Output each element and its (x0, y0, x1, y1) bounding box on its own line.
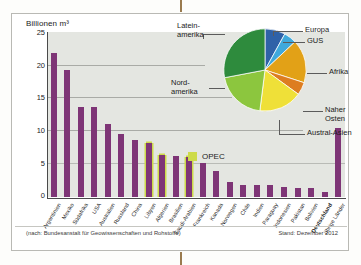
bar-australien (101, 32, 115, 197)
figure-frame: Billionen m³ 25 20 15 10 5 0 Ar (11, 13, 349, 251)
bar-usa (88, 32, 102, 197)
pie-label-naher-osten: Naher Osten (325, 106, 345, 124)
leader-lateinamerika-2 (203, 34, 214, 35)
bar-rect (254, 185, 260, 197)
y-tick-20: 20 (37, 60, 45, 69)
leader-austral-asien (279, 134, 305, 135)
pie-label-afrika: Afrika (329, 68, 348, 77)
pie-label-nordamerika-line2: amerika (171, 87, 198, 96)
leader-europa-stub (273, 31, 274, 36)
pie-slice-lateinamerika (224, 29, 265, 78)
leader-europa (273, 31, 303, 32)
bar-rect (322, 192, 328, 197)
registration-mark-bottom (180, 252, 182, 265)
x-label-chile: Chile (240, 202, 252, 216)
bar-rect (91, 107, 97, 197)
pie-label-lateinamerika: Latein- amerika (177, 22, 204, 40)
pie-label-lateinamerika-line2: amerika (177, 30, 204, 39)
pie-label-europa: Europa (305, 26, 329, 35)
leader-lateinamerika (213, 34, 225, 35)
leader-gus (283, 42, 305, 43)
bar-brasilien (169, 32, 183, 197)
bar-rect (132, 140, 138, 197)
y-tick-0: 0 (41, 191, 45, 200)
bar-rect (78, 107, 84, 197)
y-axis: 25 20 15 10 5 0 (34, 32, 47, 197)
y-tick-5: 5 (41, 158, 45, 167)
bar-rect (146, 143, 152, 197)
pie-label-nordamerika-line1: Nord- (171, 78, 190, 87)
bar-rect (227, 182, 233, 197)
bar-rect (159, 155, 165, 197)
x-label-indien: Indien (252, 202, 265, 218)
date-note: Stand: Dezember 2012 (278, 230, 338, 236)
footer-divider (15, 226, 347, 227)
bar-rect (213, 171, 219, 197)
leader-naher-osten (303, 111, 323, 112)
bar-libyen (142, 32, 156, 197)
bar-rect (200, 163, 206, 197)
pie-label-naher-osten-line2: Osten (325, 114, 345, 123)
bar-rect (308, 188, 314, 197)
pie-chart: Latein- amerika Nord- amerika Europa GUS… (195, 16, 350, 161)
leader-afrika (307, 73, 327, 74)
y-tick-10: 10 (37, 126, 45, 135)
bar-rect (281, 187, 287, 197)
bar-saudi-arabien (182, 32, 196, 197)
y-tick-15: 15 (37, 93, 45, 102)
bar-rect (118, 134, 124, 197)
y-tick-25: 25 (37, 28, 45, 37)
bar-algerien (155, 32, 169, 197)
bar-rect (105, 124, 111, 197)
registration-mark-top (180, 0, 182, 12)
figure-page: Billionen m³ 25 20 15 10 5 0 Ar (0, 0, 361, 265)
pie-label-gus: GUS (307, 37, 323, 46)
leader-nordamerika (209, 88, 225, 89)
bar-rect (64, 70, 70, 197)
bar-china (128, 32, 142, 197)
pie-graphic (223, 28, 307, 112)
x-label-china: China (130, 202, 143, 218)
bar-rect (186, 157, 192, 197)
pie-label-nordamerika: Nord- amerika (171, 79, 198, 97)
source-note: (nach: Bundesanstalt für Geowissenschaft… (26, 230, 181, 236)
bar-rect (240, 185, 246, 197)
leader-austral-asien-stub (279, 120, 280, 135)
x-axis-line (47, 198, 346, 199)
y-axis-title: Billionen m³ (26, 19, 69, 28)
bar-rect (51, 53, 57, 197)
bar-russland (115, 32, 129, 197)
pie-label-austral-asien: Austral-Asien (307, 129, 352, 138)
bar-rect (173, 156, 179, 197)
pie-label-naher-osten-line1: Naher (325, 105, 345, 114)
bar-mexiko (61, 32, 75, 197)
pie-label-lateinamerika-line1: Latein- (177, 21, 200, 30)
bar-rect (267, 185, 273, 197)
bar-argentinien (47, 32, 61, 197)
bar-s-dafrika (74, 32, 88, 197)
bar-rect (295, 188, 301, 197)
x-label-usa: USA (91, 202, 102, 215)
